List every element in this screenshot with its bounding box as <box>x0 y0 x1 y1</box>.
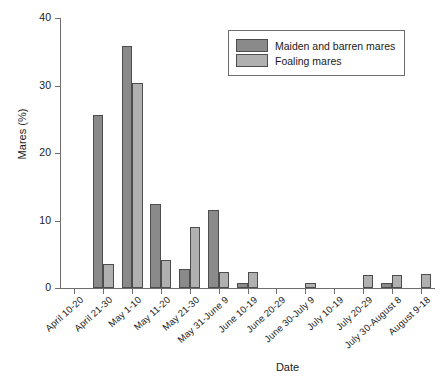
x-axis-title: Date <box>0 361 445 373</box>
legend-label: Maiden and barren mares <box>275 40 395 52</box>
legend-swatch-icon <box>236 39 268 52</box>
legend-swatch-icon <box>236 54 268 67</box>
legend-item-maiden-and-barren-mares: Maiden and barren mares <box>236 39 395 52</box>
bar-chart: 010203040 April 10-20April 21-30May 1-10… <box>0 0 445 383</box>
chart-legend: Maiden and barren mares Foaling mares <box>228 30 405 76</box>
y-axis-title: Mares (%) <box>16 74 28 194</box>
legend-label: Foaling mares <box>275 55 342 67</box>
legend-item-foaling-mares: Foaling mares <box>236 54 395 67</box>
